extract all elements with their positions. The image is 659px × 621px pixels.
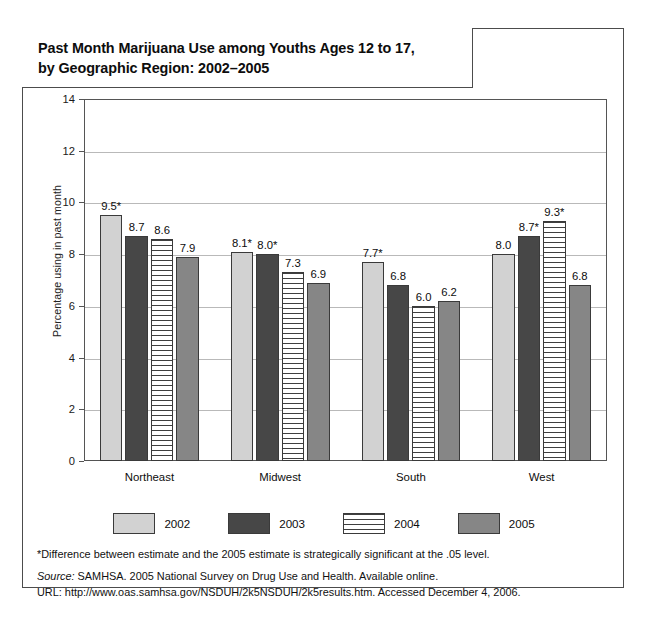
- y-tick-mark: [79, 461, 84, 462]
- legend: 2002200320042005: [23, 513, 625, 534]
- bar-group: 7.7*6.86.06.2: [362, 99, 461, 461]
- significance-note: *Difference between estimate and the 200…: [37, 547, 612, 562]
- bar-value-label: 9.3*: [544, 206, 564, 218]
- bar-fill: [176, 257, 198, 461]
- bar-northeast-2005[interactable]: 7.9: [176, 257, 198, 461]
- footnotes: *Difference between estimate and the 200…: [37, 547, 612, 600]
- y-tick-label: 8: [23, 248, 75, 260]
- legend-item-2002[interactable]: 2002: [113, 513, 190, 534]
- bar-west-2002[interactable]: 8.0: [492, 254, 514, 461]
- bar-west-2003[interactable]: 8.7*: [518, 236, 540, 461]
- y-tick-mark: [79, 99, 84, 100]
- bar-midwest-2002[interactable]: 8.1*: [231, 252, 253, 461]
- x-axis-label-northeast: Northeast: [84, 471, 215, 483]
- bar-fill: [362, 262, 384, 461]
- bar-value-label: 8.0: [496, 239, 512, 251]
- bar-midwest-2003[interactable]: 8.0*: [256, 254, 278, 461]
- source-text: SAMHSA. 2005 National Survey on Drug Use…: [75, 570, 439, 582]
- y-tick-mark: [79, 202, 84, 203]
- bar-northeast-2002[interactable]: 9.5*: [100, 215, 122, 461]
- bar-fill: [151, 239, 173, 461]
- bars-layer: 9.5*8.78.67.9Northeast8.1*8.0*7.36.9Midw…: [84, 99, 607, 461]
- bar-value-label: 8.7: [129, 221, 145, 233]
- bar-value-label: 8.1*: [232, 237, 252, 249]
- legend-label-2002: 2002: [164, 517, 190, 530]
- bar-value-label: 6.2: [441, 286, 457, 298]
- bar-value-label: 7.3: [285, 257, 301, 269]
- bar-group: 8.08.7*9.3*6.8: [492, 99, 591, 461]
- bar-fill: [307, 283, 329, 461]
- bar-south-2003[interactable]: 6.8: [387, 285, 409, 461]
- bar-fill: [438, 301, 460, 461]
- bar-value-label: 9.5*: [101, 200, 121, 212]
- y-tick-label: 0: [23, 455, 75, 467]
- bar-value-label: 6.8: [390, 270, 406, 282]
- y-tick-label: 2: [23, 403, 75, 415]
- y-tick-mark: [79, 358, 84, 359]
- bar-midwest-2005[interactable]: 6.9: [307, 283, 329, 461]
- y-tick-label: 10: [23, 196, 75, 208]
- legend-swatch-2005: [458, 513, 500, 534]
- bar-fill: [282, 272, 304, 461]
- title-box: Past Month Marijuana Use among Youths Ag…: [22, 28, 473, 88]
- bar-fill: [387, 285, 409, 461]
- source-note: Source: SAMHSA. 2005 National Survey on …: [37, 569, 612, 584]
- y-tick-label: 12: [23, 145, 75, 157]
- bar-south-2002[interactable]: 7.7*: [362, 262, 384, 461]
- bar-fill: [569, 285, 591, 461]
- bar-value-label: 7.9: [180, 242, 196, 254]
- bar-value-label: 6.8: [572, 270, 588, 282]
- x-axis-label-west: West: [476, 471, 607, 483]
- legend-swatch-2002: [113, 513, 155, 534]
- bar-value-label: 8.7*: [519, 221, 539, 233]
- bar-fill: [543, 221, 565, 461]
- legend-swatch-2004: [343, 513, 385, 534]
- bar-midwest-2004[interactable]: 7.3: [282, 272, 304, 461]
- bar-value-label: 7.7*: [363, 247, 383, 259]
- legend-item-2004[interactable]: 2004: [343, 513, 420, 534]
- bar-south-2005[interactable]: 6.2: [438, 301, 460, 461]
- y-tick-mark: [79, 409, 84, 410]
- source-label: Source:: [37, 570, 75, 582]
- figure-panel: Past Month Marijuana Use among Youths Ag…: [22, 28, 624, 588]
- bar-northeast-2003[interactable]: 8.7: [125, 236, 147, 461]
- bar-fill: [492, 254, 514, 461]
- y-tick-label: 4: [23, 352, 75, 364]
- bar-fill: [256, 254, 278, 461]
- bar-value-label: 8.0*: [257, 239, 277, 251]
- y-axis-title: Percentage using in past month: [51, 141, 63, 381]
- bar-fill: [412, 306, 434, 461]
- bar-fill: [231, 252, 253, 461]
- bar-value-label: 6.0: [416, 291, 432, 303]
- bar-south-2004[interactable]: 6.0: [412, 306, 434, 461]
- bar-value-label: 6.9: [310, 268, 326, 280]
- url-note: URL: http://www.oas.samhsa.gov/NSDUH/2k5…: [37, 585, 612, 600]
- legend-swatch-2003: [228, 513, 270, 534]
- bar-west-2004[interactable]: 9.3*: [543, 221, 565, 461]
- legend-label-2005: 2005: [509, 517, 535, 530]
- y-tick-mark: [79, 306, 84, 307]
- bar-west-2005[interactable]: 6.8: [569, 285, 591, 461]
- bar-fill: [125, 236, 147, 461]
- bar-fill: [100, 215, 122, 461]
- legend-label-2004: 2004: [394, 517, 420, 530]
- x-axis-label-south: South: [346, 471, 477, 483]
- bar-value-label: 8.6: [154, 224, 170, 236]
- bar-northeast-2004[interactable]: 8.6: [151, 239, 173, 461]
- bar-fill: [518, 236, 540, 461]
- bar-group: 8.1*8.0*7.36.9: [231, 99, 330, 461]
- y-tick-label: 14: [23, 93, 75, 105]
- bar-group: 9.5*8.78.67.9: [100, 99, 199, 461]
- y-tick-mark: [79, 151, 84, 152]
- y-tick-mark: [79, 254, 84, 255]
- legend-item-2005[interactable]: 2005: [458, 513, 535, 534]
- legend-item-2003[interactable]: 2003: [228, 513, 305, 534]
- plot-wrapper: Percentage using in past month 9.5*8.78.…: [23, 95, 625, 495]
- legend-label-2003: 2003: [279, 517, 305, 530]
- y-tick-label: 6: [23, 300, 75, 312]
- page-title: Past Month Marijuana Use among Youths Ag…: [38, 39, 458, 78]
- x-axis-label-midwest: Midwest: [215, 471, 346, 483]
